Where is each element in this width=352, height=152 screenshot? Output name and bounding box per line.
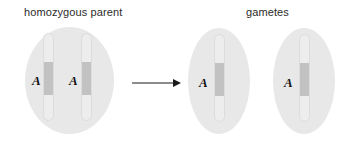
chromosome-band	[300, 63, 309, 96]
gametes-label: gametes	[246, 6, 289, 18]
allele-label-parent-1: A	[32, 73, 41, 89]
gamete-chromosome-2	[299, 34, 310, 122]
chromosome-band	[82, 62, 91, 95]
parent-label: homozygous parent	[24, 6, 122, 18]
allele-label-parent-2: A	[69, 73, 78, 89]
allele-label-gamete-2: A	[284, 75, 293, 91]
allele-label-gamete-1: A	[199, 75, 208, 91]
parent-chromosome-2	[81, 33, 92, 121]
chromosome-band	[44, 62, 53, 95]
arrow-right-icon	[132, 75, 182, 91]
parent-chromosome-1	[43, 33, 54, 121]
gamete-chromosome-1	[214, 34, 225, 122]
chromosome-band	[215, 63, 224, 96]
genetics-diagram: homozygous parent gametes A A A A	[0, 0, 352, 152]
